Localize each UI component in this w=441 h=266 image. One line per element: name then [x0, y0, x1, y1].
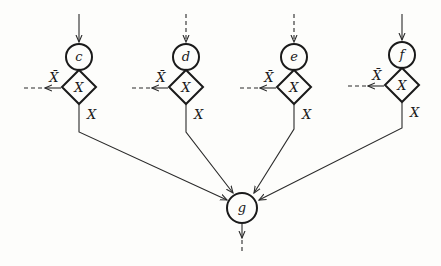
branch-f: f X X̄ X — [259, 14, 420, 200]
true-label-c: X — [86, 107, 97, 122]
decision-c-label: X — [73, 80, 84, 95]
node-c-label: c — [75, 49, 83, 64]
true-label-e: X — [301, 107, 312, 122]
false-label-c: X̄ — [48, 70, 59, 85]
branch-e: e X X̄ X — [240, 14, 312, 193]
flow-diagram: c X X̄ X d X X̄ X e X X̄ X f — [0, 0, 441, 266]
false-label-d: X̄ — [155, 70, 166, 85]
node-e-label: e — [290, 49, 298, 64]
node-g-label: g — [238, 200, 246, 215]
true-edge-c — [79, 104, 227, 200]
decision-d-label: X — [180, 80, 191, 95]
false-label-f: X̄ — [371, 68, 382, 83]
true-edge-e — [254, 104, 294, 193]
false-label-e: X̄ — [263, 70, 274, 85]
true-label-f: X — [409, 105, 420, 120]
sink-g: g — [227, 193, 257, 252]
node-d-label: d — [182, 49, 190, 64]
branch-d: d X X̄ X — [132, 14, 233, 193]
decision-e-label: X — [288, 80, 299, 95]
decision-f-label: X — [396, 78, 407, 93]
true-label-d: X — [193, 107, 204, 122]
